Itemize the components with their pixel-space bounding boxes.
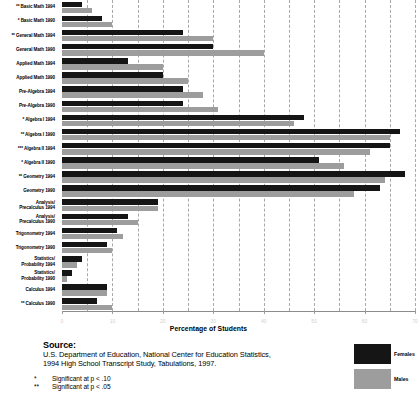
bar-males <box>62 92 203 98</box>
category-label: * Algebra I 1994 <box>0 113 57 127</box>
bar-females <box>62 199 158 205</box>
legend-swatch-male <box>354 369 391 389</box>
legend-swatch-female <box>354 344 391 364</box>
category-label: Trigonometry 1994 <box>0 226 57 240</box>
x-axis-title: Percentage of Students <box>0 325 417 332</box>
chart-row: Analysis/ Precalculus 1994 <box>0 198 417 212</box>
category-label: Pre-Algebra 1994 <box>0 85 57 99</box>
bar-females <box>62 44 213 50</box>
category-label: Calculus 1994 <box>0 283 57 297</box>
bar-females <box>62 58 128 64</box>
bar-females <box>62 30 183 36</box>
source-heading: Source: <box>43 340 343 350</box>
x-tick <box>163 311 164 314</box>
bar-males <box>62 262 77 268</box>
source-line: 1994 High School Transcript Study, Tabul… <box>43 359 343 368</box>
bar-group <box>62 28 417 42</box>
bar-males <box>62 8 92 14</box>
bar-group <box>62 113 417 127</box>
chart-row: ** Algebra I 1990 <box>0 127 417 141</box>
bar-group <box>62 156 417 170</box>
chart-row: Applied Math 1994 <box>0 57 417 71</box>
x-tick <box>213 311 214 314</box>
category-label: Applied Math 1994 <box>0 57 57 71</box>
bar-group <box>62 0 417 14</box>
chart-row: Trigonometry 1994 <box>0 226 417 240</box>
category-label: Applied Math 1990 <box>0 71 57 85</box>
bar-males <box>62 177 385 183</box>
significance-notes: *Significant at p < .10**Significant at … <box>34 375 334 392</box>
bar-females <box>62 214 128 220</box>
category-label: *** Algebra II 1994 <box>0 141 57 155</box>
x-tick <box>112 311 113 314</box>
x-tick <box>415 311 416 314</box>
bar-males <box>62 276 67 282</box>
chart-row: Trigonometry 1990 <box>0 240 417 254</box>
x-tick-label: 30 <box>211 318 217 324</box>
category-label: * Basic Math 1990 <box>0 14 57 28</box>
chart-row: ** General Math 1994 <box>0 28 417 42</box>
category-label: Statistics/ Probability 1994 <box>0 254 57 268</box>
note-text: Significant at p < .10 <box>52 375 110 382</box>
bar-group <box>62 14 417 28</box>
bar-males <box>62 36 213 42</box>
bar-females <box>62 72 163 78</box>
bar-group <box>62 71 417 85</box>
chart-row: Statistics/ Probability 1994 <box>0 254 417 268</box>
chart-row: *** Algebra II 1994 <box>0 141 417 155</box>
bar-group <box>62 297 417 311</box>
bar-group <box>62 269 417 283</box>
x-tick-label: 50 <box>311 318 317 324</box>
x-tick-label: 20 <box>160 318 166 324</box>
bar-males <box>62 149 370 155</box>
note-marker: ** <box>34 383 49 391</box>
category-label: ** Algebra I 1990 <box>0 127 57 141</box>
category-label: Trigonometry 1990 <box>0 240 57 254</box>
chart-row: Statistics/ Probability 1990 <box>0 269 417 283</box>
legend-label: Males <box>394 376 408 382</box>
bar-males <box>62 248 112 254</box>
significance-note: **Significant at p < .05 <box>34 383 334 391</box>
x-tick-label: 70 <box>412 318 418 324</box>
bar-group <box>62 254 417 268</box>
x-tick-label: 60 <box>362 318 368 324</box>
bar-females <box>62 228 117 234</box>
bar-females <box>62 101 183 107</box>
bar-males <box>62 305 112 311</box>
bar-females <box>62 16 102 22</box>
category-label: ** Geometry 1994 <box>0 170 57 184</box>
bar-females <box>62 284 107 290</box>
legend-item: Females <box>354 344 415 364</box>
bar-males <box>62 78 188 84</box>
x-tick <box>314 311 315 314</box>
bar-males <box>62 163 344 169</box>
bar-males <box>62 22 112 28</box>
bar-females <box>62 242 107 248</box>
source-line: U.S. Department of Education, National C… <box>43 350 343 359</box>
chart-row: * Basic Math 1990 <box>0 14 417 28</box>
chart-row: ** Calculus 1990 <box>0 297 417 311</box>
bar-group <box>62 141 417 155</box>
bar-males <box>62 50 264 56</box>
bar-group <box>62 57 417 71</box>
category-label: ** Basic Math 1994 <box>0 0 57 14</box>
bar-group <box>62 212 417 226</box>
chart-row: Pre-Algebra 1990 <box>0 99 417 113</box>
bar-females <box>62 185 380 191</box>
x-tick <box>264 311 265 314</box>
bar-males <box>62 107 218 113</box>
chart-legend: FemalesMales <box>354 344 415 394</box>
x-tick <box>62 311 63 314</box>
bar-females <box>62 115 304 121</box>
source-footer: Source: U.S. Department of Education, Na… <box>43 340 343 368</box>
bar-females <box>62 171 405 177</box>
note-marker: * <box>34 375 49 383</box>
note-text: Significant at p < .05 <box>52 383 110 390</box>
chart-row: Calculus 1994 <box>0 283 417 297</box>
bar-males <box>62 220 138 226</box>
category-label: General Math 1990 <box>0 42 57 56</box>
chart-row: ** Basic Math 1994 <box>0 0 417 14</box>
bar-females <box>62 256 82 262</box>
chart-row: ** Geometry 1994 <box>0 170 417 184</box>
x-tick <box>365 311 366 314</box>
